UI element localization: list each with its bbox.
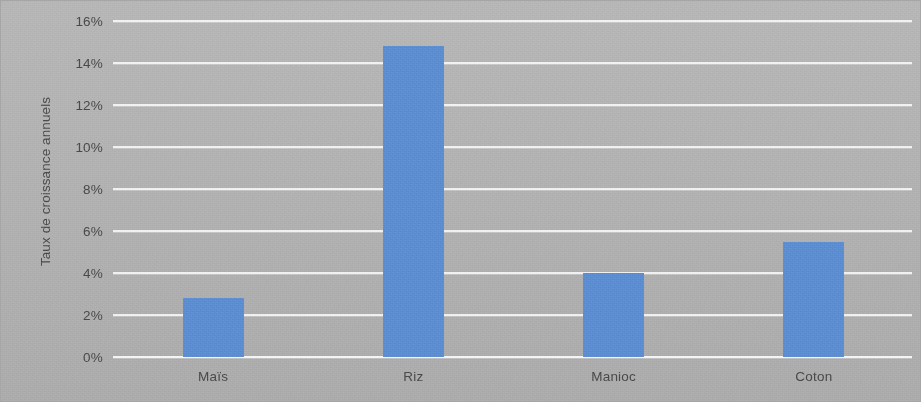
y-axis-tick-label: 14% [75,56,103,71]
bars-layer [113,1,912,402]
x-axis-category-labels: MaïsRizManiocCoton [113,369,912,395]
bar [383,46,444,357]
y-axis-tick-label: 12% [75,98,103,113]
y-axis-tick-label: 0% [83,350,103,365]
x-axis-category-label: Maïs [198,369,228,384]
y-axis-tick-label: 16% [75,14,103,29]
y-axis-title-text: Taux de croissance annuels [39,96,54,265]
x-axis-category-label: Manioc [591,369,636,384]
y-axis-tick-label: 2% [83,308,103,323]
plot-area [113,1,912,402]
bar [783,242,844,358]
y-axis-tick-labels: 0%2%4%6%8%10%12%14%16% [57,1,109,402]
x-axis-category-label: Riz [403,369,423,384]
y-axis-tick-label: 6% [83,224,103,239]
y-axis-tick-label: 4% [83,266,103,281]
y-axis-tick-label: 8% [83,182,103,197]
x-axis-category-label: Coton [795,369,832,384]
chart-frame: Taux de croissance annuels 0%2%4%6%8%10%… [0,0,921,402]
bar [583,273,644,357]
bar [183,298,244,357]
y-axis-tick-label: 10% [75,140,103,155]
